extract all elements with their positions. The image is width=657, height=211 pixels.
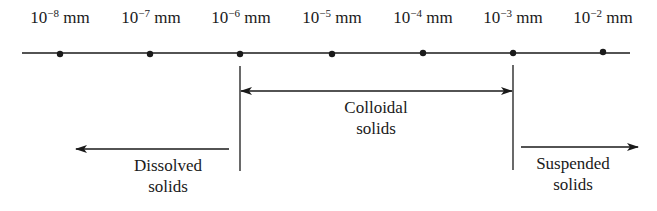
tick-label-1e-2: 10−2 mm [573, 8, 632, 29]
tick-label-1e-6: 10−6 mm [211, 8, 270, 29]
dissolved-label-line1: Dissolved [134, 155, 202, 176]
suspended-solids-label: Suspended solids [536, 153, 610, 195]
colloidal-solids-label: Colloidal solids [344, 97, 407, 139]
suspended-label-line1: Suspended [536, 153, 610, 174]
colloidal-label-line1: Colloidal [344, 97, 407, 118]
tick-label-1e-8: 10−8 mm [30, 8, 89, 29]
tick-label-1e-4: 10−4 mm [393, 8, 452, 29]
tick-dot [600, 49, 606, 55]
tick-label-1e-5: 10−5 mm [302, 8, 361, 29]
tick-label-1e-3: 10−3 mm [483, 8, 542, 29]
tick-dot [237, 51, 243, 57]
tick-dot [57, 51, 63, 57]
tick-dot [147, 51, 153, 57]
tick-dot [329, 51, 335, 57]
dissolved-solids-label: Dissolved solids [134, 155, 202, 197]
tick-dot [420, 50, 426, 56]
tick-dot [510, 50, 516, 56]
dissolved-label-line2: solids [134, 176, 202, 197]
suspended-label-line2: solids [536, 174, 610, 195]
tick-label-1e-7: 10−7 mm [121, 8, 180, 29]
colloidal-label-line2: solids [344, 118, 407, 139]
